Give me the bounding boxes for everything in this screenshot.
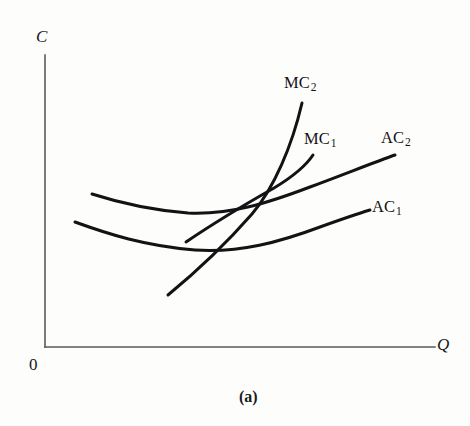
y-axis-label: C bbox=[36, 28, 47, 45]
panel-caption: (a) bbox=[239, 389, 258, 405]
curve-mc1 bbox=[186, 155, 313, 242]
curve-label-mc2-subscript: 2 bbox=[310, 81, 317, 93]
curve-label-mc2: MC2 bbox=[284, 75, 317, 94]
curve-label-ac2: AC2 bbox=[381, 130, 411, 149]
curve-label-ac1-subscript: 1 bbox=[395, 205, 402, 217]
curve-label-ac2-subscript: 2 bbox=[404, 136, 411, 148]
cost-curves-figure: C Q 0 MC2 MC1 AC2 AC1 (a) bbox=[0, 0, 470, 426]
curve-label-mc2-text: MC bbox=[284, 73, 310, 92]
curve-label-mc1-text: MC bbox=[304, 129, 330, 148]
origin-label: 0 bbox=[29, 356, 38, 373]
curve-label-ac1-text: AC bbox=[372, 197, 395, 216]
curve-mc2 bbox=[168, 103, 302, 295]
curve-label-ac1: AC1 bbox=[372, 199, 402, 218]
curve-label-ac2-text: AC bbox=[381, 128, 404, 147]
x-axis-label: Q bbox=[437, 336, 449, 353]
curve-label-mc1-subscript: 1 bbox=[330, 137, 337, 149]
curve-label-mc1: MC1 bbox=[304, 131, 337, 150]
